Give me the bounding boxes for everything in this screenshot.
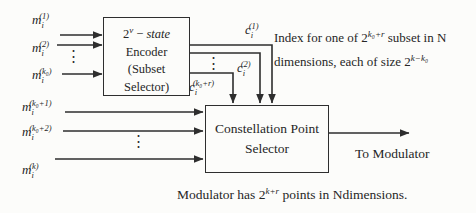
encoder-line4: Selector) — [104, 79, 189, 97]
encoder-line2: Encoder — [104, 44, 189, 62]
caption-modulator-points: Modulator has 2k+r points in Ndimensions… — [177, 186, 407, 203]
output-label-c1: ci(1) — [245, 21, 259, 40]
input-label-m2: mi(2) — [32, 39, 49, 58]
to-modulator-label: To Modulator — [355, 146, 429, 162]
input-label-mk0plus1: mi(k₀+1) — [22, 98, 52, 117]
ellipsis-encoder-outputs: ⋮ — [206, 56, 221, 71]
block-diagram: 2v − state Encoder (Subset Selector) Con… — [0, 0, 476, 213]
encoder-title: 2v − state — [104, 22, 189, 44]
input-label-mk0: mi(k₀) — [32, 66, 52, 85]
annotation-line1: Index for one of 2k₀+r subset in N — [274, 24, 446, 48]
input-label-mk0plus2: mi(k₀+2) — [22, 123, 52, 142]
input-label-m1: mi(1) — [32, 11, 49, 30]
encoder-box: 2v − state Encoder (Subset Selector) — [103, 17, 190, 96]
ellipsis-upper-inputs: ⋮ — [66, 49, 81, 64]
annotation-subset-index: Index for one of 2k₀+r subset in N dimen… — [274, 24, 446, 72]
annotation-line2: dimensions, each of size 2k−k₀ — [274, 48, 446, 72]
output-label-ck0r: ci(k₀+r) — [189, 78, 214, 97]
output-label-c2: ci(2) — [237, 59, 251, 78]
input-label-mk: mi(k) — [22, 161, 39, 180]
constellation-line1: Constellation Point — [206, 119, 328, 139]
ellipsis-lower-inputs: ⋮ — [131, 134, 146, 149]
encoder-line3: (Subset — [104, 61, 189, 79]
constellation-line2: Selector — [206, 139, 328, 159]
constellation-selector-box: Constellation Point Selector — [205, 105, 329, 173]
